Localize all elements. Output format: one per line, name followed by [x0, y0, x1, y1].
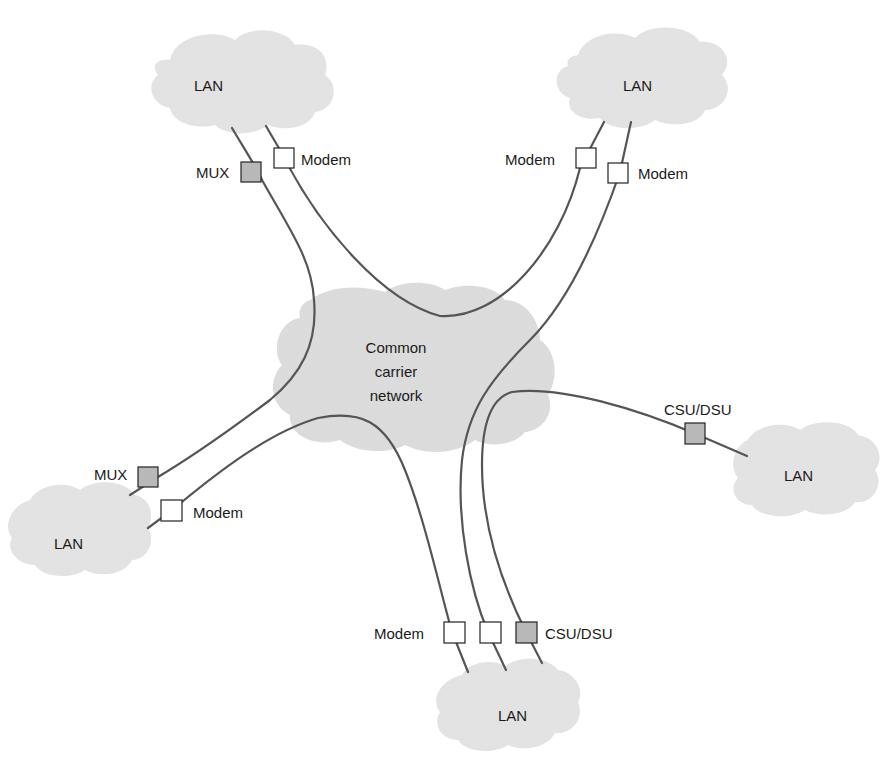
- mux-top-left-box: [241, 162, 261, 182]
- modem-bottom-1-label: Modem: [374, 626, 424, 641]
- modem-bottom-left-box: [161, 500, 182, 521]
- lan-label-bottom-left: LAN: [54, 536, 83, 551]
- mux-top-left-label: MUX: [196, 165, 229, 180]
- link-mux-top-left-to-mux-bottom-left: [130, 128, 315, 495]
- modem-top-left-label: Modem: [301, 152, 351, 167]
- csudsu-right-box: [685, 423, 705, 444]
- modem-bottom-2-box: [480, 622, 501, 643]
- lan-label-right: LAN: [784, 468, 813, 483]
- lan-label-top-right: LAN: [623, 78, 652, 93]
- mux-bottom-left-label: MUX: [94, 467, 127, 482]
- csudsu-bottom-label: CSU/DSU: [545, 626, 613, 641]
- center-cloud-line-3: network: [336, 384, 456, 408]
- center-cloud-line-2: carrier: [336, 360, 456, 384]
- lan-label-bottom: LAN: [498, 708, 527, 723]
- lan-label-top-left: LAN: [194, 78, 223, 93]
- lan-cloud-bottom-left: [8, 482, 151, 576]
- csudsu-right-label: CSU/DSU: [664, 402, 732, 417]
- lan-cloud-bottom: [436, 659, 580, 751]
- modem-top-right-2-box: [608, 163, 628, 183]
- mux-bottom-left-box: [138, 467, 158, 487]
- modem-top-left-box: [274, 148, 294, 168]
- center-cloud-label: Common carrier network: [336, 336, 456, 408]
- modem-top-right-1-box: [576, 148, 596, 168]
- lan-cloud-top-left: [151, 30, 333, 133]
- modem-bottom-left-label: Modem: [193, 505, 243, 520]
- center-cloud-line-1: Common: [336, 336, 456, 360]
- modem-top-right-2-label: Modem: [638, 166, 688, 181]
- modem-bottom-1-box: [444, 622, 465, 643]
- modem-top-right-1-label: Modem: [505, 152, 555, 167]
- csudsu-bottom-box: [516, 622, 537, 643]
